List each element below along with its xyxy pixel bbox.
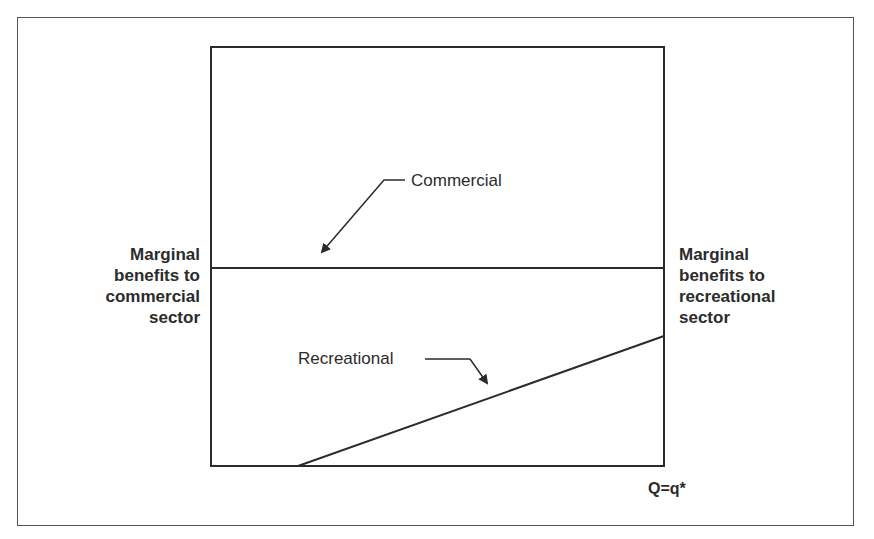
commercial-annotation: Commercial — [411, 170, 502, 191]
right-axis-label: Marginal benefits to recreational sector — [679, 244, 839, 328]
left-axis-line: commercial — [70, 286, 200, 307]
left-axis-label: Marginal benefits to commercial sector — [70, 244, 200, 328]
right-axis-line: Marginal — [679, 244, 839, 265]
commercial-arrow — [322, 180, 405, 252]
left-axis-line: sector — [70, 307, 200, 328]
right-axis-line: recreational — [679, 286, 839, 307]
left-axis-line: benefits to — [70, 265, 200, 286]
recreational-arrow — [425, 359, 487, 383]
recreational-annotation: Recreational — [298, 348, 393, 369]
right-axis-line: benefits to — [679, 265, 839, 286]
left-axis-line: Marginal — [70, 244, 200, 265]
x-axis-label: Q=q* — [648, 478, 686, 499]
right-axis-line: sector — [679, 307, 839, 328]
plot-box — [211, 47, 664, 466]
